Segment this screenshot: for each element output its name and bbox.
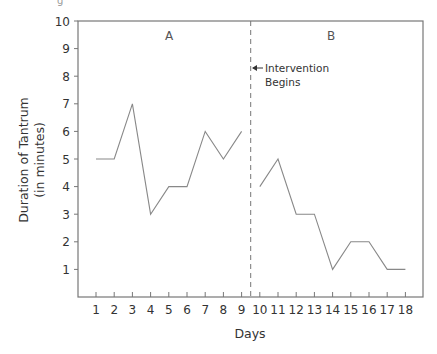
- y-tick-label: 8: [62, 70, 70, 84]
- y-tick-label: 1: [62, 263, 70, 277]
- x-tick-label: 16: [361, 303, 376, 317]
- series-line-b: [260, 159, 406, 269]
- x-axis-title: Days: [234, 326, 265, 341]
- x-tick-label: 8: [220, 303, 228, 317]
- clipped-caption-fragment: g: [57, 0, 63, 6]
- x-tick-label: 9: [238, 303, 246, 317]
- x-tick-label: 2: [110, 303, 118, 317]
- y-tick-label: 10: [55, 15, 70, 29]
- y-tick-label: 6: [62, 125, 70, 139]
- x-tick-label: 10: [252, 303, 267, 317]
- phase-label-b: B: [327, 29, 335, 43]
- y-tick-label: 2: [62, 235, 70, 249]
- x-tick-label: 7: [201, 303, 209, 317]
- y-tick-label: 9: [62, 42, 70, 56]
- y-axis-subtitle: (in minutes): [32, 122, 47, 198]
- x-tick-label: 1: [92, 303, 100, 317]
- arrow-left-icon: [252, 65, 263, 71]
- x-tick-label: 11: [270, 303, 285, 317]
- x-tick-label: 15: [343, 303, 358, 317]
- x-tick-label: 3: [129, 303, 137, 317]
- y-tick-label: 4: [62, 180, 70, 194]
- x-tick-label: 14: [325, 303, 340, 317]
- y-axis-title: Duration of Tantrum: [16, 97, 31, 223]
- x-tick-label: 12: [289, 303, 304, 317]
- line-chart: g 12345678910 12345678910111213141516171…: [0, 0, 437, 354]
- annotation-line-1: Intervention: [265, 62, 329, 74]
- annotation-line-2: Begins: [265, 76, 300, 88]
- x-tick-label: 6: [183, 303, 191, 317]
- x-tick-label: 17: [380, 303, 395, 317]
- series-line-a: [96, 104, 242, 214]
- y-tick-label: 7: [62, 97, 70, 111]
- x-tick-label: 5: [165, 303, 173, 317]
- x-axis: 123456789101112131415161718: [92, 292, 413, 317]
- y-tick-label: 5: [62, 153, 70, 167]
- x-tick-label: 4: [147, 303, 155, 317]
- x-tick-label: 13: [307, 303, 322, 317]
- phase-label-a: A: [165, 29, 174, 43]
- y-tick-label: 3: [62, 208, 70, 222]
- intervention-annotation: Intervention Begins: [252, 62, 329, 88]
- y-axis: 12345678910: [55, 15, 78, 277]
- x-tick-label: 18: [398, 303, 413, 317]
